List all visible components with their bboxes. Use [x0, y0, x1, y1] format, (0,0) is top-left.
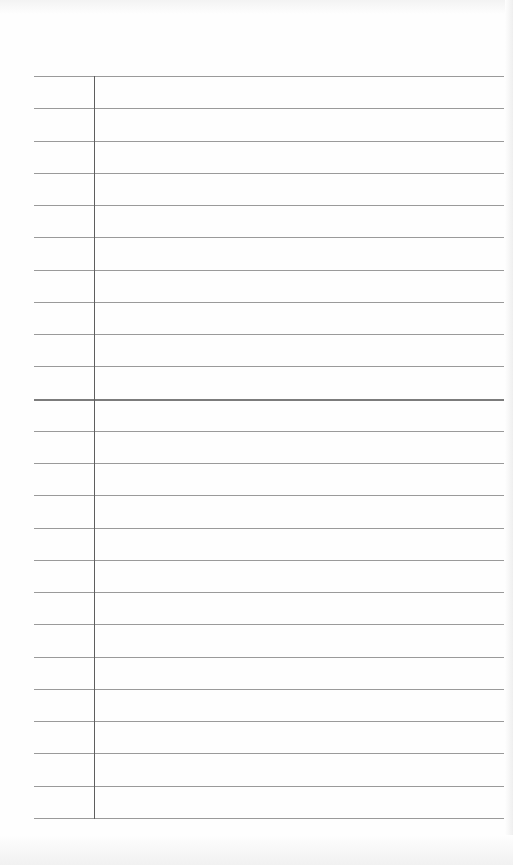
ruled-line: [34, 689, 504, 690]
right-edge-shadow: [505, 0, 513, 865]
ruled-line: [34, 560, 504, 561]
top-edge-shadow: [0, 0, 513, 14]
ruled-line: [34, 657, 504, 658]
ruled-line: [34, 76, 504, 77]
ruled-line: [34, 463, 504, 464]
ruled-line: [34, 399, 504, 401]
ruled-line: [34, 141, 504, 142]
ruled-line: [34, 237, 504, 238]
bottom-edge-shadow: [0, 835, 513, 865]
ruled-line: [34, 495, 504, 496]
ruled-line: [34, 366, 504, 367]
margin-line: [94, 76, 95, 819]
ruled-line: [34, 302, 504, 303]
ruled-line: [34, 528, 504, 529]
ruled-line: [34, 624, 504, 625]
ruled-line: [34, 818, 504, 819]
ruled-line: [34, 270, 504, 271]
ruled-line: [34, 431, 504, 432]
ruled-line: [34, 592, 504, 593]
ruled-line: [34, 108, 504, 109]
ruled-line: [34, 721, 504, 722]
ruled-line: [34, 173, 504, 174]
ruled-line: [34, 334, 504, 335]
ruled-line: [34, 205, 504, 206]
lined-paper-sheet: [0, 0, 513, 865]
ruled-line: [34, 786, 504, 787]
ruled-line: [34, 753, 504, 754]
